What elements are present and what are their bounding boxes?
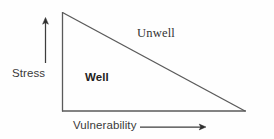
stress-vulnerability-figure: Stress Well Unwell Vulnerability <box>0 0 274 139</box>
region-label-well: Well <box>85 72 109 84</box>
x-axis-label: Vulnerability <box>73 120 137 132</box>
y-axis-label: Stress <box>12 68 45 80</box>
up-arrow-icon <box>43 18 49 64</box>
region-label-unwell: Unwell <box>137 27 175 40</box>
right-arrow-icon <box>140 124 206 130</box>
